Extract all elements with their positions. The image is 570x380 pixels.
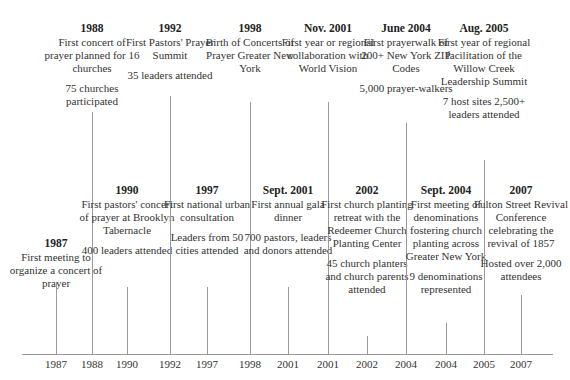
event-statistic: Hosted over 2,000 attendees	[473, 257, 569, 283]
event-connector-line	[446, 323, 447, 354]
axis-year-label: 1988	[72, 358, 112, 371]
event-description: First year of regional facilitation of t…	[436, 36, 532, 88]
timeline-diagram: 1987 First meeting to organize a concert…	[0, 0, 570, 380]
event-connector-line	[288, 287, 289, 354]
axis-year-label: 2002	[347, 358, 387, 371]
timeline-axis	[22, 354, 553, 355]
axis-year-label: 1998	[230, 358, 270, 371]
axis-year-label: 2001	[268, 358, 308, 371]
event-connector-line	[127, 287, 128, 354]
axis-year-label: 2004	[386, 358, 426, 371]
event-connector-line	[56, 283, 57, 354]
axis-year-label: 2004	[426, 358, 466, 371]
event-date: 2007	[473, 184, 569, 197]
event-connector-line	[207, 287, 208, 354]
axis-year-label: 2007	[501, 358, 541, 371]
axis-year-label: 1990	[107, 358, 147, 371]
event-date: Aug. 2005	[436, 22, 532, 35]
axis-year-label: 2005	[464, 358, 504, 371]
axis-year-label: 1992	[150, 358, 190, 371]
timeline-event-aug-2005: Aug. 2005 First year of regional facilit…	[436, 22, 532, 121]
axis-year-label: 2001	[308, 358, 348, 371]
timeline-event-2007: 2007 Fulton Street Revival Conference ce…	[473, 184, 569, 283]
event-connector-line	[521, 295, 522, 354]
event-description: Fulton Street Revival Conference celebra…	[473, 198, 569, 250]
axis-year-label: 1987	[36, 358, 76, 371]
event-connector-line	[367, 336, 368, 354]
event-statistic: 75 churches participated	[44, 82, 140, 108]
event-statistic: 7 host sites 2,500+ leaders attended	[436, 95, 532, 121]
axis-year-label: 1997	[187, 358, 227, 371]
